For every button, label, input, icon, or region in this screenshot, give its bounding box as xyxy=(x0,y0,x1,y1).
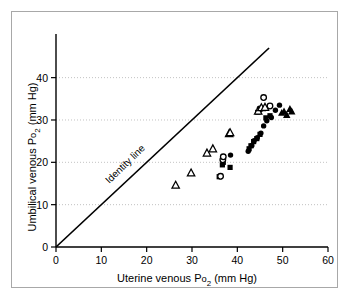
data-point-open-triangle-1 xyxy=(187,169,194,176)
data-point-filled-circle-8 xyxy=(269,115,274,120)
data-point-filled-circle-1 xyxy=(246,149,251,154)
data-point-filled-circle-7 xyxy=(264,118,269,123)
data-point-filled-circle-4 xyxy=(255,135,260,140)
data-point-open-triangle-0 xyxy=(172,181,179,188)
x-tick-label-20: 20 xyxy=(141,255,153,266)
identity-line xyxy=(56,48,269,247)
figure-canvas: Uterine venous Po2 (mm Hg) Umbilical ven… xyxy=(0,0,350,300)
data-point-open-triangle-3 xyxy=(209,145,216,152)
y-tick-label-20: 20 xyxy=(36,157,48,168)
data-point-filled-circle-9 xyxy=(273,108,278,113)
x-axis-label: Uterine venous Po2 (mm Hg) xyxy=(117,272,257,287)
x-tick-label-0: 0 xyxy=(53,255,59,266)
data-point-filled-circle-5 xyxy=(258,130,263,135)
x-tick-label-30: 30 xyxy=(186,255,198,266)
data-point-open-circle-4 xyxy=(261,95,267,101)
y-tick-label-0: 0 xyxy=(42,242,48,253)
data-point-open-circle-2 xyxy=(220,154,226,160)
data-point-filled-circle-6 xyxy=(261,123,266,128)
y-tick-label-30: 30 xyxy=(36,115,48,126)
x-tick-label-40: 40 xyxy=(231,255,243,266)
data-point-filled-circle-0 xyxy=(228,152,233,157)
data-point-open-circle-0 xyxy=(218,173,224,179)
y-tick-label-10: 10 xyxy=(36,199,48,210)
data-point-filled-square-3 xyxy=(227,165,232,170)
x-axis-label-text: Uterine venous Po2 (mm Hg) xyxy=(117,272,257,284)
x-tick-label-60: 60 xyxy=(322,255,334,266)
data-point-filled-circle-2 xyxy=(249,143,254,148)
figure-frame: Uterine venous Po2 (mm Hg) Umbilical ven… xyxy=(11,11,338,288)
y-tick-label-40: 40 xyxy=(36,72,48,83)
scatter-plot xyxy=(12,12,339,289)
data-point-filled-circle-10 xyxy=(277,102,282,107)
x-tick-label-10: 10 xyxy=(95,255,107,266)
x-tick-label-50: 50 xyxy=(277,255,289,266)
